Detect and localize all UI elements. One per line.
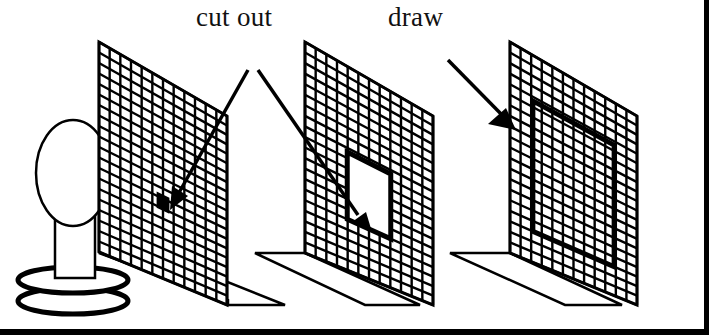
frame-border-bottom [0,329,709,335]
label-draw: draw [388,2,443,33]
grid-panel-1 [99,42,285,305]
draw-arrow [448,60,516,130]
diagram-canvas [0,0,709,335]
label-cut-out: cut out [196,2,272,33]
frame-border-right [704,0,709,335]
grid-panel-3 [450,42,637,305]
grid-panel-2 [255,42,433,305]
diagram-figure: cut out draw [0,0,709,335]
